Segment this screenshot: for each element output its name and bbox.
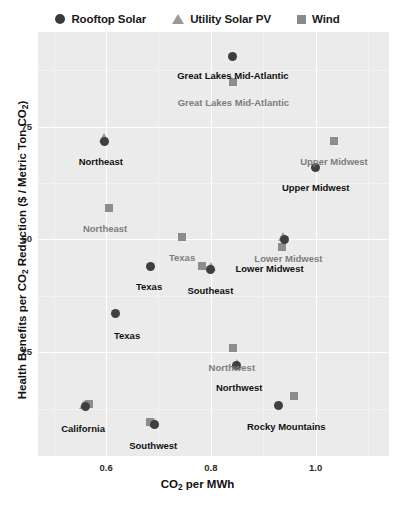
gridline-vertical-minor: [368, 32, 369, 456]
data-point-square[interactable]: [330, 137, 338, 145]
square-icon: [297, 15, 306, 24]
data-point-square[interactable]: [290, 392, 298, 400]
data-point-label: Rocky Mountains: [247, 421, 326, 432]
data-point-circle[interactable]: [280, 235, 289, 244]
gridline-horizontal: [38, 127, 389, 128]
gridline-vertical: [316, 32, 317, 456]
x-axis-tick-label: 0.6: [86, 462, 126, 473]
data-point-circle[interactable]: [228, 52, 237, 61]
legend-item-utility-solar-pv[interactable]: Utility Solar PV: [172, 13, 271, 25]
data-point-label: Great Lakes Mid-Atlantic: [177, 70, 288, 81]
y-axis-title-part-a: Health Benefits per CO: [16, 274, 28, 399]
gridline-vertical: [106, 32, 107, 456]
gridline-horizontal: [38, 352, 389, 353]
data-point-circle[interactable]: [100, 137, 109, 146]
legend-item-wind[interactable]: Wind: [297, 13, 340, 25]
data-point-square[interactable]: [229, 344, 237, 352]
x-axis-title: CO2 per MWh: [0, 478, 395, 490]
gridline-vertical-minor: [263, 32, 264, 456]
data-point-label: Lower Midwest: [236, 263, 304, 274]
gridline-vertical-minor: [158, 32, 159, 456]
data-point-label: Northeast: [83, 223, 127, 234]
y-axis-title-subscript-1: 2: [21, 269, 30, 274]
y-axis-title-part-b: Reduction ($ / Metric Ton CO: [16, 109, 28, 269]
data-point-label: Great Lakes Mid-Atlantic: [178, 97, 289, 108]
x-axis-tick-label: 1.0: [296, 462, 336, 473]
legend-label-utility-solar-pv: Utility Solar PV: [190, 13, 271, 25]
x-axis-title-main: CO: [161, 478, 178, 490]
chart-legend: Rooftop Solar Utility Solar PV Wind: [0, 8, 395, 30]
x-axis-title-tail: per MWh: [183, 478, 235, 490]
data-point-label: California: [61, 423, 105, 434]
legend-label-wind: Wind: [312, 13, 340, 25]
legend-item-rooftop-solar[interactable]: Rooftop Solar: [55, 13, 146, 25]
data-point-label: Southwest: [129, 440, 177, 451]
data-point-square[interactable]: [198, 262, 206, 270]
gridline-vertical-minor: [54, 32, 55, 456]
chart-root: Rooftop Solar Utility Solar PV Wind Grea…: [0, 0, 395, 506]
circle-icon: [55, 14, 65, 24]
data-point-circle[interactable]: [81, 402, 90, 411]
y-axis-title-subscript-2: 2: [21, 105, 30, 110]
data-point-label: Southeast: [187, 285, 233, 296]
data-point-square[interactable]: [178, 233, 186, 241]
triangle-icon: [172, 14, 184, 24]
gridline-vertical: [211, 32, 212, 456]
data-point-circle[interactable]: [146, 262, 155, 271]
x-axis-tick-label: 0.8: [191, 462, 231, 473]
data-point-label: Texas: [136, 281, 162, 292]
data-point-label: Northeast: [79, 156, 123, 167]
data-point-label: Upper Midwest: [300, 156, 368, 167]
data-point-label: Upper Midwest: [282, 182, 350, 193]
gridline-horizontal: [38, 239, 389, 240]
legend-label-rooftop-solar: Rooftop Solar: [71, 13, 146, 25]
data-point-label: Northwest: [216, 382, 262, 393]
y-axis-title: Health Benefits per CO2 Reduction ($ / M…: [16, 100, 28, 400]
data-point-circle[interactable]: [111, 309, 120, 318]
data-point-label: Northwest: [209, 362, 255, 373]
plot-area: Great Lakes Mid-AtlanticGreat Lakes Mid-…: [38, 32, 389, 456]
gridline-horizontal-minor: [38, 409, 389, 410]
data-point-label: Texas: [169, 252, 195, 263]
data-point-circle[interactable]: [206, 265, 215, 274]
data-point-square[interactable]: [105, 204, 113, 212]
x-axis-title-subscript: 2: [178, 483, 183, 492]
data-point-label: Texas: [114, 330, 140, 341]
